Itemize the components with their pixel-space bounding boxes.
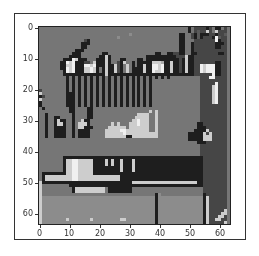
x-tick-mark	[70, 225, 71, 228]
x-tick-label: 60	[215, 230, 225, 238]
y-tick-label: 30	[23, 117, 33, 125]
x-tick-label: 0	[37, 230, 42, 238]
x-tick-label: 10	[64, 230, 74, 238]
x-tick-mark	[130, 225, 131, 228]
y-tick-mark	[35, 28, 38, 29]
image-plot-area	[38, 26, 231, 225]
grayscale-image	[39, 27, 230, 224]
y-tick-label: 10	[23, 55, 33, 63]
y-tick-label: 60	[23, 210, 33, 218]
x-tick-label: 20	[95, 230, 105, 238]
y-tick-mark	[35, 183, 38, 184]
x-tick-mark	[40, 225, 41, 228]
y-tick-mark	[35, 152, 38, 153]
x-tick-label: 40	[155, 230, 165, 238]
y-tick-label: 50	[23, 179, 33, 187]
y-tick-mark	[35, 214, 38, 215]
x-tick-mark	[160, 225, 161, 228]
y-tick-label: 40	[23, 148, 33, 156]
x-tick-mark	[190, 225, 191, 228]
y-tick-label: 20	[23, 86, 33, 94]
y-tick-mark	[35, 59, 38, 60]
x-tick-mark	[100, 225, 101, 228]
x-tick-label: 50	[185, 230, 195, 238]
y-tick-mark	[35, 121, 38, 122]
y-tick-mark	[35, 90, 38, 91]
x-tick-mark	[220, 225, 221, 228]
x-tick-label: 30	[125, 230, 135, 238]
y-tick-label: 0	[28, 24, 33, 32]
